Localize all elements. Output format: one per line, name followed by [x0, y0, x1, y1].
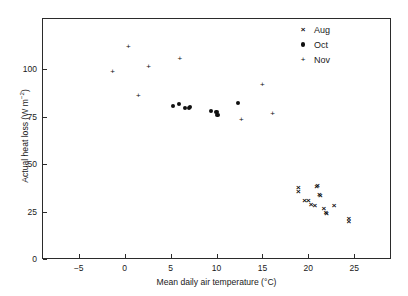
scatter-chart-figure: −50510152025 0255075100 ××××××××××××××××…	[0, 0, 408, 296]
legend-label-nov: Nov	[310, 55, 330, 65]
y-tick-75	[43, 117, 47, 118]
legend-marker-nov-icon: +	[296, 55, 310, 65]
legend: ×AugOct+Nov	[296, 22, 374, 67]
x-ticklabel-10: 10	[202, 263, 232, 273]
x-tick-5	[171, 254, 172, 258]
x-ticklabel-0: 0	[110, 263, 140, 273]
x-tick-10	[217, 254, 218, 258]
y-axis-exponent: −2	[18, 92, 25, 99]
legend-item-nov[interactable]: +Nov	[296, 52, 374, 67]
x-tick-20	[308, 254, 309, 258]
x-tick-−5	[79, 254, 80, 258]
x-axis-label: Mean daily air temperature (°C)	[42, 277, 391, 287]
legend-marker-oct-icon	[296, 40, 310, 50]
legend-item-aug[interactable]: ×Aug	[296, 22, 374, 37]
y-tick-25	[43, 212, 47, 213]
legend-item-oct[interactable]: Oct	[296, 37, 374, 52]
x-tick-15	[262, 254, 263, 258]
y-tick-50	[43, 164, 47, 165]
y-ticklabel-0: 0	[13, 254, 37, 264]
y-tick-0	[43, 259, 47, 260]
legend-label-aug: Aug	[310, 25, 330, 35]
legend-marker-aug-icon: ×	[296, 25, 310, 35]
x-tick-25	[354, 254, 355, 258]
x-ticklabel-15: 15	[247, 263, 277, 273]
x-tick-0	[125, 254, 126, 258]
legend-label-oct: Oct	[310, 40, 328, 50]
x-ticklabel-20: 20	[293, 263, 323, 273]
y-tick-100	[43, 69, 47, 70]
filled-circle-icon	[301, 42, 305, 46]
x-ticklabel-25: 25	[339, 263, 369, 273]
x-ticklabel-5: 5	[156, 263, 186, 273]
x-ticklabel-−5: −5	[64, 263, 94, 273]
y-axis-label: Actual heat loss (W m−2)	[18, 46, 30, 226]
